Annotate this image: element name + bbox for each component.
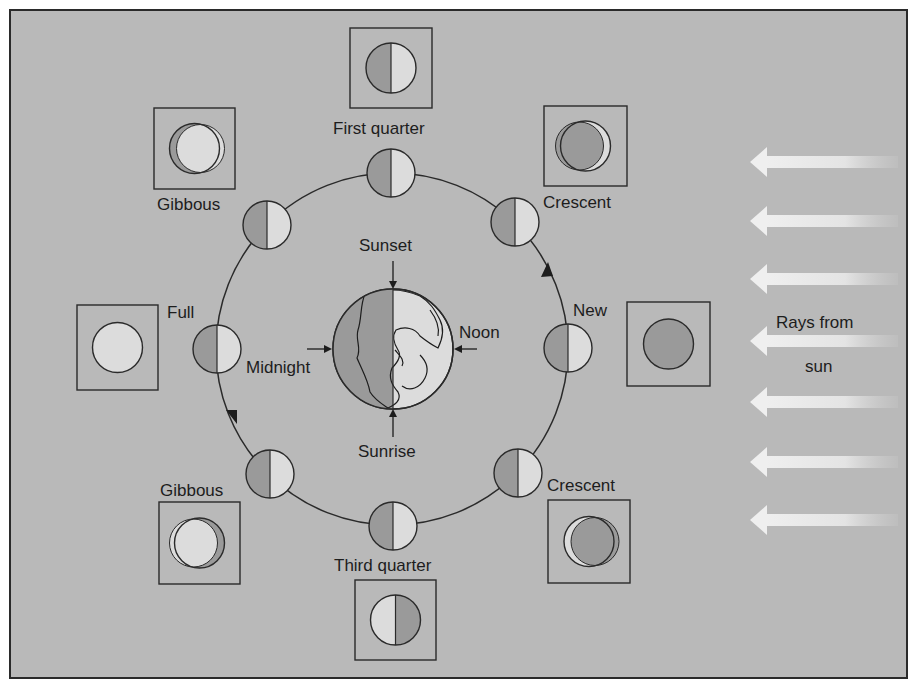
orbit-moon	[243, 201, 291, 249]
sun-ray-arrow-icon	[750, 505, 898, 535]
label-third-quarter: Third quarter	[334, 557, 431, 574]
orbit-moon	[367, 149, 415, 197]
orbit-moon	[246, 450, 294, 498]
orbit-moon	[494, 449, 542, 497]
label-noon: Noon	[459, 324, 500, 341]
moon-phases-diagram	[0, 0, 915, 692]
sun-ray-arrow-icon	[750, 447, 898, 477]
label-new: New	[573, 302, 607, 319]
moon-appearance-icon	[644, 319, 694, 369]
label-rays-from: Rays from	[776, 314, 853, 331]
orbit-moon	[491, 198, 539, 246]
orbit-arrow-icon	[541, 262, 553, 277]
label-gibbous-top: Gibbous	[157, 196, 220, 213]
phase-box-full	[77, 305, 158, 390]
label-full: Full	[167, 304, 194, 321]
phase-box-waxing-crescent	[544, 106, 627, 186]
moon-appearance-icon	[564, 517, 619, 567]
sun-ray-arrow-icon	[750, 387, 898, 417]
sun-rays	[750, 147, 898, 535]
label-gibbous-bottom: Gibbous	[160, 482, 223, 499]
sun-ray-arrow-icon	[750, 206, 898, 236]
sun-ray-arrow-icon	[750, 147, 898, 177]
phase-box-third-quarter	[355, 580, 436, 660]
phase-box-waning-gibbous	[159, 502, 240, 584]
phase-box-first-quarter	[350, 28, 432, 108]
label-crescent-top: Crescent	[543, 194, 611, 211]
orbit-moon	[369, 502, 417, 550]
label-midnight: Midnight	[246, 359, 310, 376]
label-first-quarter: First quarter	[333, 120, 425, 137]
phase-box-new	[627, 302, 710, 386]
moon-appearance-icon	[366, 43, 416, 93]
label-sunset: Sunset	[359, 237, 412, 254]
moon-appearance-icon	[93, 323, 143, 373]
phase-box-waning-crescent	[548, 500, 630, 583]
label-crescent-bottom: Crescent	[547, 477, 615, 494]
moon-appearance-icon	[170, 124, 225, 174]
label-sunrise: Sunrise	[358, 443, 416, 460]
phase-box-waxing-gibbous	[154, 108, 235, 189]
label-sun: sun	[805, 358, 832, 375]
orbit-moon	[193, 325, 241, 373]
moon-appearance-icon	[556, 121, 611, 171]
sun-ray-arrow-icon	[750, 264, 898, 294]
orbit-moon	[544, 324, 592, 372]
earth	[333, 289, 453, 409]
moon-appearance-icon	[371, 595, 421, 645]
moon-appearance-icon	[170, 518, 225, 568]
